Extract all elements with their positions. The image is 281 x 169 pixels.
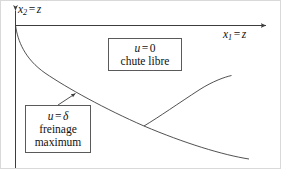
annotation-line-freinage: freinage [26, 123, 90, 136]
annotation-equals: = [140, 42, 150, 54]
annotation-line-chute-libre: chute libre [109, 55, 181, 68]
free-fall-trajectory [144, 76, 232, 127]
annotation-line-u-equals-delta: u=δ [26, 110, 90, 123]
annotation-line-u-equals-zero: u=0 [109, 42, 181, 55]
annotation-value-delta: δ [63, 110, 68, 122]
axis-label-value-z: z [242, 28, 246, 40]
axis-label-equals: = [27, 3, 37, 15]
leader-arrow-to-braking-curve [58, 94, 76, 106]
phase-plane-figure: x2=z x1=z u=0 chute libre u=δ freinage m… [0, 0, 281, 169]
annotation-box-freinage-maximum: u=δ freinage maximum [25, 105, 91, 153]
annotation-value-zero: 0 [150, 42, 156, 54]
annotation-line-maximum: maximum [26, 136, 90, 149]
horizontal-axis-label: x1=z [223, 28, 246, 42]
axis-label-equals: = [232, 28, 242, 40]
annotation-box-chute-libre: u=0 chute libre [108, 38, 182, 71]
axis-label-value-zdot: z [37, 3, 41, 15]
annotation-equals: = [53, 110, 63, 122]
vertical-axis-label: x2=z [18, 3, 41, 17]
